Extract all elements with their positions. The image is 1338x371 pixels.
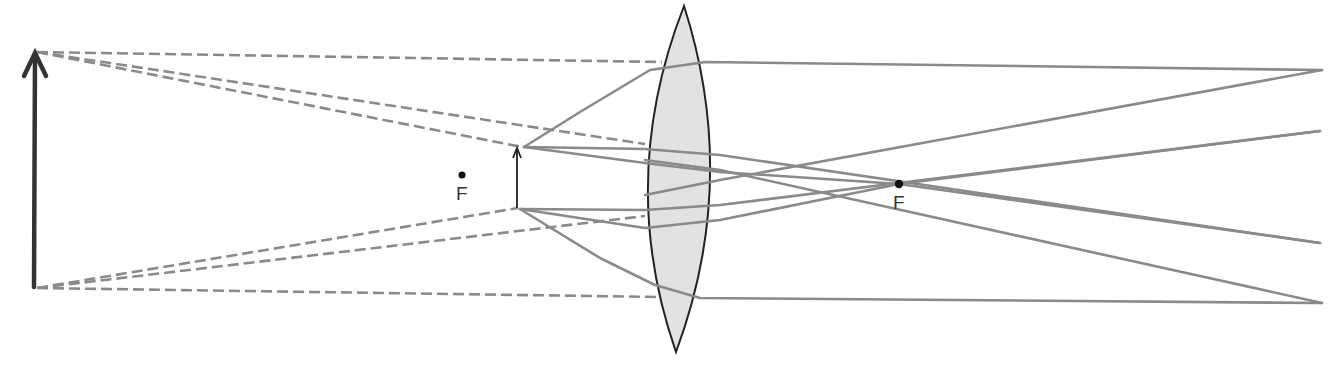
virtual-ray <box>37 288 660 297</box>
focal-point-label: F <box>456 183 468 204</box>
real-ray <box>645 160 1322 303</box>
real-ray <box>520 209 1322 303</box>
real-ray <box>524 62 1322 147</box>
lens-ray-diagram: F F <box>0 0 1338 371</box>
real-ray-group <box>520 62 1322 303</box>
virtual-ray <box>37 52 645 144</box>
object-arrow <box>24 53 46 287</box>
focal-point-label: F <box>893 192 905 213</box>
virtual-ray <box>37 52 522 147</box>
virtual-ray <box>37 216 645 288</box>
focal-point-dot <box>895 180 903 188</box>
focal-point-dot <box>459 172 466 179</box>
image-arrow <box>513 148 521 208</box>
converging-lens <box>648 6 710 352</box>
virtual-ray-group <box>37 52 662 297</box>
focal-point-left: F <box>456 172 468 205</box>
virtual-ray <box>37 208 518 288</box>
virtual-ray <box>37 52 662 62</box>
